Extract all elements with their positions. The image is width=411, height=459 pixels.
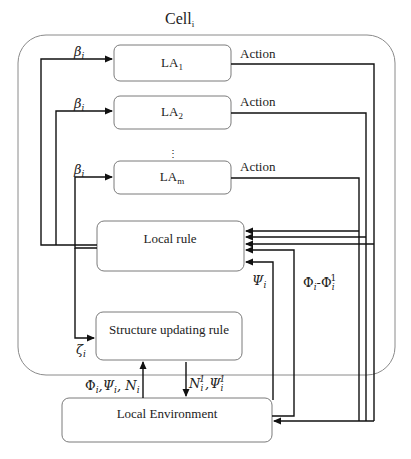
local-rule-label: Local rule — [143, 231, 196, 246]
phi-diff-label: Φi-Φi1 — [303, 273, 336, 292]
env-up-label: Φi,Ψi, Ni — [85, 378, 140, 395]
action-label-2: Action — [240, 94, 276, 109]
env-down-label: Ni1,Ψi1 — [188, 374, 225, 393]
ellipsis: ⋮ — [168, 148, 178, 159]
beta-wire-la1 — [41, 59, 112, 245]
local-environment-box: Local Environment — [62, 398, 272, 442]
lam-box: LAm — [114, 161, 231, 194]
action-label-1: Action — [240, 46, 276, 61]
action-wire-lam — [231, 178, 359, 421]
beta-label-1: βi — [73, 44, 85, 61]
cell-architecture-diagram: Celli LA1 LA2 ⋮ LAm Local rule Structure… — [0, 0, 411, 459]
action-wire-la1 — [231, 64, 374, 421]
zeta-wire — [75, 248, 94, 338]
local-rule-box: Local rule — [97, 221, 244, 271]
la1-box: LA1 — [114, 45, 231, 81]
zeta-label: ζi — [76, 342, 86, 359]
beta-label-2: βi — [73, 96, 85, 113]
structure-updating-rule-box: Structure updating rule — [96, 312, 242, 360]
cell-title: Celli — [165, 10, 195, 29]
beta-label-m: βi — [73, 162, 85, 179]
la2-box: LA2 — [114, 96, 231, 129]
psi-label: Ψi — [252, 273, 266, 290]
action-label-m: Action — [240, 159, 276, 174]
local-environment-label: Local Environment — [117, 406, 218, 421]
structure-updating-rule-label: Structure updating rule — [109, 322, 229, 337]
